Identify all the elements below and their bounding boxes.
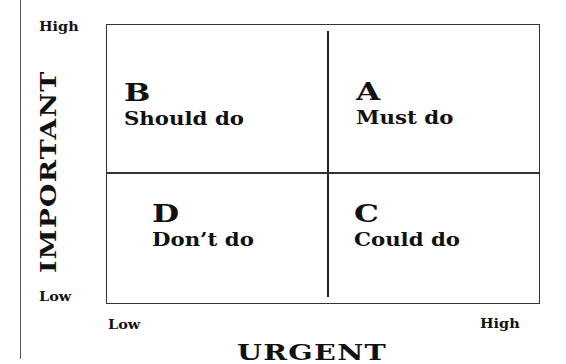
quadrant-top-left: B Should do: [124, 80, 231, 128]
quadrant-action: Don’t do: [152, 230, 254, 249]
matrix-frame: [106, 24, 540, 304]
x-axis-low-label: Low: [108, 318, 140, 332]
quadrant-bottom-right: C Could do: [354, 201, 449, 249]
horizontal-divider: [106, 172, 540, 174]
y-axis-title: IMPORTANT: [35, 71, 61, 273]
vertical-divider: [327, 31, 329, 297]
quadrant-letter: C: [354, 201, 472, 226]
x-axis-high-label: High: [480, 317, 520, 331]
quadrant-action: Must do: [356, 108, 453, 127]
quadrant-letter: A: [356, 79, 465, 104]
y-axis-low-label: Low: [39, 290, 71, 304]
x-axis-title: URGENT: [237, 339, 387, 364]
y-axis-high-label: High: [39, 20, 79, 34]
quadrant-top-right: A Must do: [356, 79, 443, 127]
quadrant-letter: B: [124, 80, 258, 105]
quadrant-letter: D: [152, 201, 266, 226]
quadrant-action: Could do: [354, 230, 460, 249]
left-margin-rule: [20, 0, 21, 359]
quadrant-action: Should do: [124, 109, 244, 128]
quadrant-bottom-left: D Don’t do: [152, 201, 243, 249]
